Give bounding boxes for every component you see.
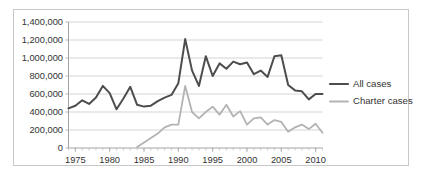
- y-tick-label: 1,000,000: [22, 53, 63, 63]
- x-tick-label: 2010: [305, 155, 326, 165]
- y-tick-label: 1,200,000: [22, 35, 63, 45]
- legend-label-1: Charter cases: [353, 95, 413, 106]
- line-chart: 0200,000400,000600,000800,0001,000,0001,…: [0, 0, 424, 183]
- x-tick-label: 1985: [134, 155, 155, 165]
- x-tick-label: 1980: [99, 155, 120, 165]
- x-tick-label: 2000: [237, 155, 258, 165]
- y-tick-label: 1,400,000: [22, 17, 63, 27]
- series-line-1: [137, 86, 322, 147]
- x-tick-label: 2005: [271, 155, 292, 165]
- y-tick-label: 400,000: [29, 107, 63, 117]
- y-tick-label: 800,000: [29, 71, 63, 81]
- y-tick-label: 600,000: [29, 89, 63, 99]
- x-tick-label: 1990: [168, 155, 189, 165]
- y-tick-label: 200,000: [29, 125, 63, 135]
- legend-label-0: All cases: [353, 78, 392, 89]
- x-tick-label: 1995: [202, 155, 223, 165]
- series-line-0: [69, 39, 323, 109]
- y-tick-label: 0: [58, 143, 63, 153]
- chart-figure: 0200,000400,000600,000800,0001,000,0001,…: [0, 0, 424, 183]
- x-tick-label: 1975: [65, 155, 86, 165]
